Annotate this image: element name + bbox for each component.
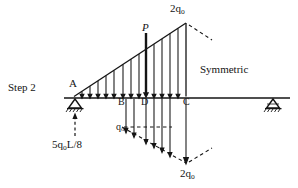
reaction-label: 5qoL/8 — [52, 139, 82, 151]
node-label-B: B — [118, 97, 125, 107]
apex-symmetry-dashed — [189, 25, 212, 40]
upper-load-peak-value: 2q — [170, 2, 181, 14]
lower-load-peak-label: 2qo — [180, 168, 195, 180]
reaction-label-suffix: L/8 — [67, 138, 82, 150]
point-load-label-P: P — [142, 22, 149, 33]
node-label-C: C — [183, 97, 190, 107]
lower-load-mid-subscript: o — [121, 125, 124, 132]
upper-load-arrows — [80, 28, 180, 98]
upper-load-peak-label: 2qo — [170, 3, 185, 15]
structural-diagram-figure: Step 2 Symmetric A B D C P 2qo qo 2qo 5q… — [0, 0, 298, 188]
step-label: Step 2 — [8, 82, 36, 93]
lower-load-right-dashed — [189, 148, 212, 162]
upper-load-peak-subscript: o — [181, 7, 185, 16]
symmetric-label: Symmetric — [200, 64, 248, 75]
point-load-P-arrow — [143, 33, 149, 99]
reaction-label-prefix: 5q — [52, 138, 63, 150]
lower-load-mid-label: qo — [116, 122, 124, 133]
reaction-arrow-at-A — [72, 113, 77, 137]
diagram-canvas — [0, 0, 298, 188]
pin-support-left — [66, 99, 84, 112]
node-label-D: D — [141, 97, 148, 107]
node-label-A: A — [69, 78, 77, 89]
pin-support-right — [264, 99, 282, 112]
upper-load-hypotenuse — [74, 23, 186, 97]
lower-load-peak-value: 2q — [180, 167, 191, 179]
lower-load-arrows — [124, 99, 188, 164]
lower-load-peak-subscript: o — [191, 172, 195, 181]
